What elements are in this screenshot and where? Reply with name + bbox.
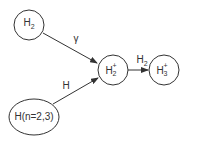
- edge-label-h2-sub: 2: [144, 60, 148, 67]
- edge-h2-to-h2plus: [43, 33, 97, 63]
- node-h3plus-sub: 3: [164, 69, 168, 79]
- node-h3plus-label: H+3: [156, 64, 169, 76]
- node-h2plus-base: H: [105, 65, 112, 76]
- edge-label-h2: H2: [136, 55, 147, 69]
- edge-h-to-h2plus: [53, 78, 98, 104]
- node-h3plus-scripts: +3: [164, 64, 170, 74]
- node-h3plus-base: H: [156, 65, 163, 76]
- reaction-diagram: H2 H+2 H+3 H(n=2,3) γ H H2: [0, 0, 209, 146]
- node-h2plus-scripts: +2: [113, 64, 119, 74]
- node-h2-label: H2: [23, 18, 34, 32]
- edge-label-h: H: [62, 81, 69, 91]
- node-h2-sub: 2: [31, 23, 35, 30]
- edge-label-gamma: γ: [74, 34, 79, 44]
- node-h2plus-sub: 2: [113, 69, 117, 79]
- node-h-excited-label: H(n=2,3): [14, 112, 53, 122]
- node-h2plus-label: H+2: [105, 64, 118, 76]
